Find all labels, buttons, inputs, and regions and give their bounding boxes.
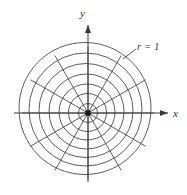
- polar-ray: [55, 113, 88, 170]
- r-equals-one-leader-line: [123, 49, 136, 59]
- polar-grid-figure: y x r = 1: [0, 0, 187, 195]
- y-axis-label: y: [80, 8, 85, 19]
- polar-grid-canvas: [0, 0, 187, 195]
- origin-marker: [85, 110, 90, 115]
- r-equals-one-label: r = 1: [137, 42, 160, 52]
- polar-ray: [88, 80, 145, 113]
- x-axis-label: x: [173, 108, 178, 119]
